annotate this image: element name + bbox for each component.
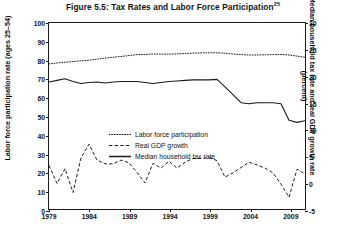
series-line-median-household-tax-rate — [49, 79, 305, 123]
y-left-tick-7: 70 — [37, 76, 45, 83]
y-left-tick-5-mark — [46, 117, 49, 118]
y-right-tick-0-mark — [305, 211, 308, 212]
y-left-tick-6: 60 — [37, 95, 45, 102]
y-left-tick-2-mark — [46, 173, 49, 174]
y-right-tick-1-mark — [305, 184, 308, 185]
y-left-tick-10: 100 — [34, 20, 45, 27]
legend-label-0: Labor force participation — [135, 131, 208, 138]
chart-title-text: Figure 5.5: Tax Rates and Labor Force Pa… — [66, 2, 274, 12]
legend-key-solid — [109, 153, 131, 160]
y-left-tick-3: 30 — [37, 151, 45, 158]
y-left-tick-2: 20 — [37, 170, 45, 177]
y-left-tick-5: 50 — [37, 114, 45, 121]
y-left-tick-9: 90 — [37, 38, 45, 45]
x-tick-4: 1999 — [203, 213, 218, 220]
x-tick-6: 2009 — [283, 213, 298, 220]
legend-label-2: Median household tax rate — [135, 153, 215, 160]
x-tick-5-mark — [251, 209, 252, 212]
legend-key-dotted — [109, 131, 131, 138]
x-tick-5: 2004 — [243, 213, 258, 220]
y-left-tick-4-mark — [46, 136, 49, 137]
chart-legend: Labor force participationReal GDP growth… — [109, 129, 215, 162]
legend-key-dashed — [109, 142, 131, 149]
x-tick-3: 1994 — [162, 213, 177, 220]
y-left-tick-9-mark — [46, 42, 49, 43]
x-tick-6-mark — [291, 209, 292, 212]
y-left-tick-6-mark — [46, 98, 49, 99]
y-axis-right-title: Median household tax rate and real GDP g… — [300, 0, 316, 180]
y-right-tick-1: 0 — [309, 181, 313, 188]
y-left-tick-8-mark — [46, 61, 49, 62]
y-left-tick-1: 10 — [37, 189, 45, 196]
y-left-tick-8: 80 — [37, 57, 45, 64]
x-tick-2: 1989 — [122, 213, 137, 220]
chart-title: Figure 5.5: Tax Rates and Labor Force Pa… — [0, 1, 346, 12]
y-axis-left-title: Labor force participation rate (ages 25–… — [4, 0, 12, 182]
legend-item-2: Median household tax rate — [109, 151, 215, 162]
series-line-labor-force-participation — [49, 53, 305, 64]
x-tick-3-mark — [170, 209, 171, 212]
y-left-tick-1-mark — [46, 192, 49, 193]
legend-label-1: Real GDP growth — [135, 142, 188, 149]
y-left-tick-10-mark — [46, 23, 49, 24]
chart-lines — [49, 23, 305, 209]
x-tick-1: 1984 — [82, 213, 97, 220]
x-tick-2-mark — [130, 209, 131, 212]
x-tick-0: 1979 — [41, 213, 56, 220]
x-tick-1-mark — [89, 209, 90, 212]
x-tick-0-mark — [49, 209, 50, 212]
x-tick-4-mark — [210, 209, 211, 212]
y-left-tick-7-mark — [46, 79, 49, 80]
y-left-tick-3-mark — [46, 155, 49, 156]
y-left-tick-4: 40 — [37, 132, 45, 139]
chart-title-footnote-marker: 25 — [274, 1, 280, 7]
legend-item-1: Real GDP growth — [109, 140, 215, 151]
legend-item-0: Labor force participation — [109, 129, 215, 140]
figure-container: Figure 5.5: Tax Rates and Labor Force Pa… — [0, 0, 346, 237]
y-right-tick-0: -5 — [309, 208, 315, 215]
plot-area: 0102030405060708090100 -5051015202530 19… — [48, 22, 306, 210]
